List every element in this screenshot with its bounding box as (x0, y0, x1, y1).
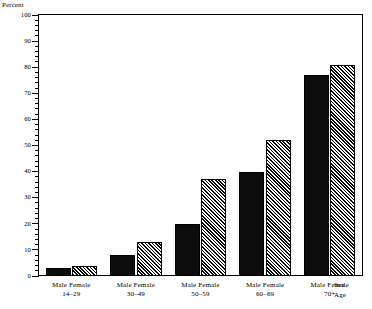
bar-male (175, 224, 200, 276)
y-tick-minor (35, 140, 39, 141)
x-group-label: Male Female14–29 (39, 281, 104, 299)
y-tick-minor (35, 114, 39, 115)
y-tick-major (32, 145, 39, 146)
bar-male (110, 255, 135, 276)
y-tick-minor (35, 51, 39, 52)
x-group-label: Male Female30–49 (104, 281, 169, 299)
y-tick-label: 40 (0, 168, 31, 175)
y-tick-label: 80 (0, 64, 31, 71)
y-tick-major (32, 15, 39, 16)
y-tick-label: 10 (0, 247, 31, 254)
y-tick-minor (35, 150, 39, 151)
y-tick-minor (35, 135, 39, 136)
bar-male (239, 172, 264, 276)
y-tick-minor (35, 265, 39, 266)
y-tick-minor (35, 46, 39, 47)
y-tick-label: 60 (0, 116, 31, 123)
y-tick-label: 30 (0, 194, 31, 201)
x-group-sex-labels: Male Female (168, 281, 233, 290)
y-tick-minor (35, 244, 39, 245)
y-tick-minor (35, 234, 39, 235)
y-tick-minor (35, 82, 39, 83)
y-tick-minor (35, 98, 39, 99)
bar-female (72, 266, 97, 276)
y-tick-major (32, 67, 39, 68)
bars-area (39, 15, 362, 276)
y-tick-minor (35, 239, 39, 240)
y-tick-minor (35, 108, 39, 109)
y-tick-minor (35, 182, 39, 183)
y-tick-label: 50 (0, 142, 31, 149)
x-group-label: Male Female60–69 (233, 281, 298, 299)
y-tick-minor (35, 229, 39, 230)
y-tick-minor (35, 155, 39, 156)
y-tick-minor (35, 77, 39, 78)
y-tick-minor (35, 166, 39, 167)
y-tick-minor (35, 35, 39, 36)
y-tick-minor (35, 20, 39, 21)
x-group-age-label: 60–69 (233, 290, 298, 299)
y-tick-major (32, 41, 39, 42)
bar-female (330, 65, 355, 276)
y-tick-minor (35, 213, 39, 214)
y-tick-minor (35, 260, 39, 261)
bar-male (46, 268, 71, 276)
y-tick-major (32, 171, 39, 172)
bar-male (304, 75, 329, 276)
bar-female (266, 140, 291, 276)
y-tick-minor (35, 88, 39, 89)
x-group-age-label: 14–29 (39, 290, 104, 299)
bar-chart: Percent 0102030405060708090100 Male Fema… (0, 0, 372, 309)
y-tick-minor (35, 72, 39, 73)
y-tick-major (32, 119, 39, 120)
x-group-age-label: 50–59 (168, 290, 233, 299)
y-tick-major (32, 223, 39, 224)
y-tick-major (32, 249, 39, 250)
y-tick-minor (35, 176, 39, 177)
y-tick-major (32, 276, 39, 277)
y-tick-minor (35, 124, 39, 125)
y-axis-title: Percent (2, 1, 24, 9)
y-tick-label: 70 (0, 90, 31, 97)
y-tick-minor (35, 25, 39, 26)
y-tick-label: 20 (0, 221, 31, 228)
y-tick-minor (35, 129, 39, 130)
y-tick-minor (35, 192, 39, 193)
y-tick-minor (35, 202, 39, 203)
y-tick-minor (35, 255, 39, 256)
y-tick-minor (35, 161, 39, 162)
x-group-sex-labels: Male Female (104, 281, 169, 290)
y-tick-label: 90 (0, 38, 31, 45)
x-group-sex-labels: Male Female (297, 281, 362, 290)
y-tick-minor (35, 187, 39, 188)
x-group-age-label: 30–49 (104, 290, 169, 299)
y-tick-label: 100 (0, 12, 31, 19)
bar-female (201, 179, 226, 276)
sex-axis-name: Sex (334, 281, 345, 290)
y-tick-label: 0 (0, 273, 31, 280)
y-tick-minor (35, 56, 39, 57)
y-tick-minor (35, 208, 39, 209)
y-tick-minor (35, 218, 39, 219)
bar-female (137, 242, 162, 276)
y-tick-minor (35, 103, 39, 104)
y-tick-minor (35, 61, 39, 62)
x-group-label: Male Female50–59 (168, 281, 233, 299)
x-group-label: Male Female70+ (297, 281, 362, 299)
x-group-sex-labels: Male Female (233, 281, 298, 290)
y-tick-major (32, 197, 39, 198)
y-tick-minor (35, 270, 39, 271)
x-group-age-label: 70+ (297, 290, 362, 299)
y-tick-major (32, 93, 39, 94)
x-group-sex-labels: Male Female (39, 281, 104, 290)
y-tick-minor (35, 30, 39, 31)
age-axis-name: Age (334, 291, 346, 300)
